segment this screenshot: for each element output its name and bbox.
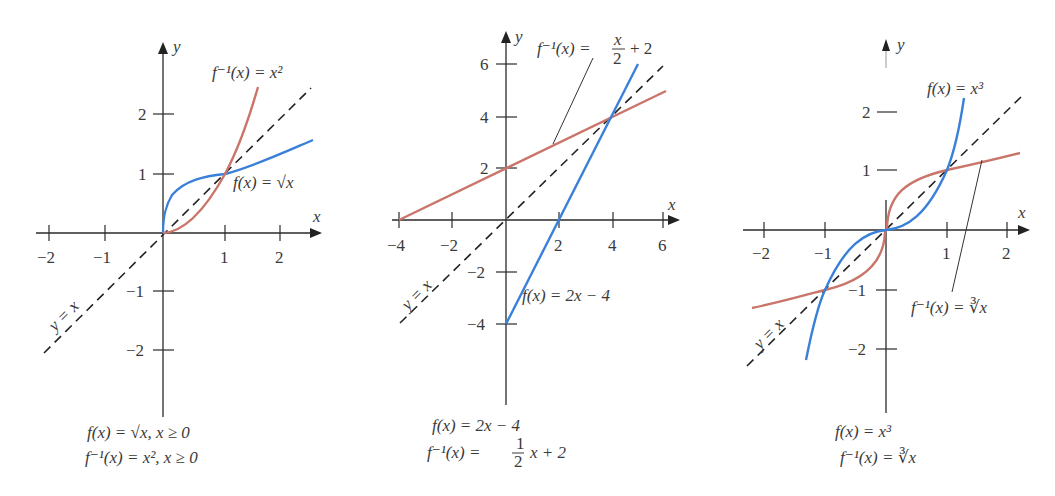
y-tick-label: 4 [480,108,489,127]
y-tick-label: −1 [126,282,144,301]
y-axis-arrow-icon [158,42,168,54]
f-inverse-line [399,91,666,220]
caption-line-2-prefix: f⁻¹(x) = [427,443,480,462]
y-tick-label: −2 [467,263,485,282]
inverse-label: f⁻¹(x) = ∛x [911,297,987,317]
caption-line-2-den: 2 [514,452,523,471]
inverse-label-suffix: + 2 [630,39,652,58]
x-tick-label: 1 [220,248,229,267]
x-tick-label: 2 [275,248,284,267]
y-axis-label: y [513,27,523,46]
identity-label: y = x [43,296,83,336]
x-tick-label: 1 [942,244,951,263]
inverse-functions-figure: x y −2 −1 1 2 2 1 −1 −2 f⁻¹(x) = x² f(x)… [0,0,1055,496]
y-tick-label: 1 [862,161,871,180]
identity-label: y = x [748,314,788,354]
y-axis-label: y [171,37,181,56]
f-inverse-square-curve [163,87,258,233]
caption-line-1: f(x) = √x, x ≥ 0 [87,423,190,442]
x-tick-label: −1 [814,244,832,263]
x-tick-label: −2 [440,236,458,255]
x-tick-label: −2 [37,248,55,267]
caption-line-2-suffix: x + 2 [529,443,567,462]
y-axis-label: y [895,35,905,54]
panel-cubic: x y −2 −1 1 2 2 1 −1 −2 f(x) = x³ f⁻¹(x)… [743,35,1030,467]
caption-line-2: f⁻¹(x) = ∛x [840,447,916,467]
identity-line [400,66,663,323]
caption-line-2: f⁻¹(x) = x², x ≥ 0 [85,448,198,467]
x-axis-label: x [1017,203,1026,222]
x-tick-label: 2 [554,236,563,255]
x-axis-label: x [667,195,676,214]
y-tick-label: 1 [138,165,147,184]
x-tick-label: 6 [658,236,667,255]
x-tick-label: −2 [752,244,770,263]
caption-line-2-num: 1 [516,434,525,453]
f-label: f(x) = 2x − 4 [522,286,611,305]
y-tick-label: 2 [862,103,871,122]
x-tick-label: 2 [1002,244,1011,263]
inverse-label-num: x [613,30,622,49]
y-tick-label: 6 [480,55,489,74]
y-tick-label: −2 [126,341,144,360]
x-axis-arrow-icon [1018,225,1030,235]
f-label: f(x) = x³ [927,79,984,98]
x-axis-label: x [312,207,321,226]
x-tick-label: 4 [608,236,617,255]
f-cube-curve [806,98,964,360]
identity-line [44,88,311,353]
y-tick-label: −4 [467,315,486,334]
y-tick-label: 2 [480,159,489,178]
inverse-label: f⁻¹(x) = x² [212,63,283,82]
y-tick-label: −1 [848,281,866,300]
f-label: f(x) = √x [233,173,294,192]
x-axis-arrow-icon [310,228,322,238]
y-axis-arrow-icon [882,39,890,51]
y-axis-arrow-icon [501,31,511,43]
inverse-label-den: 2 [613,49,622,68]
panel-sqrt: x y −2 −1 1 2 2 1 −1 −2 f⁻¹(x) = x² f(x)… [36,37,322,467]
inverse-label-prefix: f⁻¹(x) = [537,39,590,58]
caption-line-1: f(x) = x³ [835,422,892,441]
identity-label: y = x [396,275,436,315]
y-tick-label: −2 [848,340,866,359]
y-tick-label: 2 [138,105,147,124]
caption-line-1: f(x) = 2x − 4 [432,416,521,435]
panel-linear: x y −4 −2 2 4 6 6 4 2 −2 −4 f⁻¹(x) = x [387,27,680,471]
x-tick-label: −4 [387,236,406,255]
x-axis-arrow-icon [668,215,680,225]
x-tick-label: −1 [93,248,111,267]
